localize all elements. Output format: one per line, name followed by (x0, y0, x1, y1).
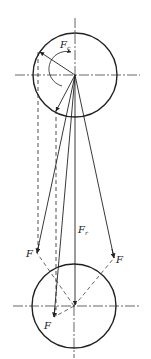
force-label-bottom: F (43, 320, 52, 331)
force-arrow-right (112, 249, 114, 258)
radius-dashed-lower (54, 306, 74, 317)
rotation-arc-icon (49, 51, 71, 86)
fc-vector-arrow (40, 52, 75, 75)
force-label-left: F (25, 248, 34, 259)
force-arrow-lower (54, 308, 55, 317)
fc-label: Fc (59, 39, 71, 51)
force-line-lower (54, 75, 75, 317)
top-circle-group: Fc (15, 18, 140, 117)
force-label-right: F (115, 254, 124, 265)
force-diagram: Fc Fr F F F (0, 0, 151, 359)
bottom-circle-group: Fr F F F (13, 224, 140, 358)
fr-label: Fr (77, 224, 89, 236)
